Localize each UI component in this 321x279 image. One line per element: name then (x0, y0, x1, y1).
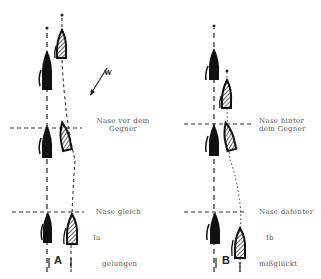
hatched-boat-icon (221, 122, 237, 151)
panel-b (184, 25, 252, 273)
label-nase-hinter: Nase hinter dem Gegner (259, 117, 306, 133)
result-label-a: gelungen (102, 260, 137, 268)
label-nase-gleich: Nase gleich (96, 208, 141, 216)
case-label-a: Ia (93, 234, 101, 242)
hatched-boat-icon (220, 80, 232, 108)
hatched-boat-icon (232, 228, 245, 258)
hatched-boat-icon (64, 214, 77, 244)
black-boat-icon (206, 48, 219, 80)
result-label-b: mißglückt (259, 260, 297, 268)
hatched-boat-icon (55, 30, 66, 58)
black-boat-icon (39, 50, 52, 90)
label-nase-dahinter: Nase dahinter (259, 208, 313, 216)
label-nase-vor: Nase vor dem Gegner (92, 117, 154, 133)
black-boat-icon (39, 125, 52, 158)
case-label-b: Ib (266, 234, 274, 242)
panel-letter-a: A (54, 254, 62, 266)
black-boat-icon (207, 212, 220, 244)
black-boat-icon (41, 212, 52, 243)
panel-letter-b: B (222, 254, 230, 266)
hatched-boat-icon (57, 122, 72, 151)
black-boat-icon (206, 124, 219, 156)
wind-label: w (104, 68, 112, 76)
